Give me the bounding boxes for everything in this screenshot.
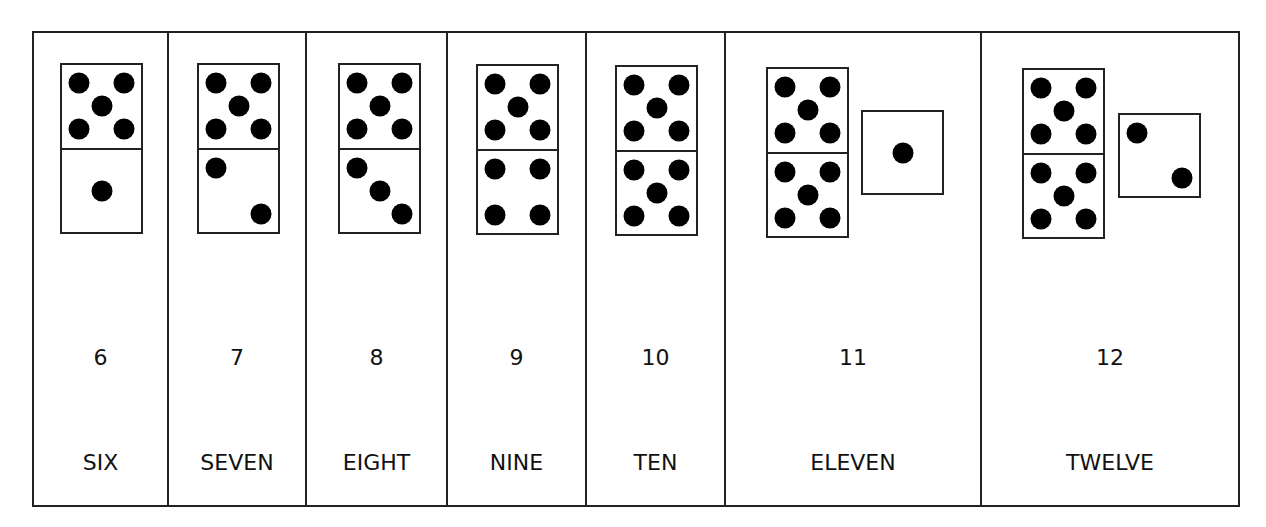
domino-bottom-half — [617, 151, 696, 235]
pip-dot — [369, 180, 390, 201]
die-icon — [1118, 113, 1201, 198]
pip-dot — [819, 77, 840, 98]
word-label: SEVEN — [169, 450, 305, 475]
pip-dot — [485, 158, 506, 179]
pip-dot — [529, 158, 550, 179]
pip-dot — [819, 123, 840, 144]
word-label: SIX — [34, 450, 167, 475]
pip-dot — [1053, 101, 1074, 122]
domino-bottom-half — [478, 150, 557, 234]
domino-top-half — [617, 67, 696, 151]
panel-six: 6 SIX — [34, 33, 169, 505]
pip-dot — [1031, 124, 1052, 145]
pip-dot — [624, 205, 645, 226]
pip-dot — [529, 204, 550, 225]
domino-icon — [615, 65, 698, 236]
pip-dot — [91, 180, 112, 201]
pip-dot — [206, 119, 227, 140]
pip-dot — [668, 159, 689, 180]
pip-dot — [347, 157, 368, 178]
pip-dot — [113, 119, 134, 140]
panel-twelve: 12 TWELVE — [982, 33, 1238, 505]
pip-dot — [775, 207, 796, 228]
pip-dot — [69, 73, 90, 94]
pip-dot — [624, 121, 645, 142]
domino-icon — [338, 63, 421, 234]
domino-bottom-half — [62, 149, 141, 233]
domino-top-half — [340, 65, 419, 149]
pip-dot — [646, 98, 667, 119]
pip-dot — [485, 74, 506, 95]
domino-top-half — [1024, 70, 1103, 154]
pip-dot — [775, 77, 796, 98]
pip-dot — [391, 203, 412, 224]
pip-dot — [668, 121, 689, 142]
number-label: 6 — [34, 345, 167, 370]
pip-dot — [797, 184, 818, 205]
pip-dot — [250, 203, 271, 224]
domino-bottom-half — [340, 149, 419, 233]
domino-bottom-half — [199, 149, 278, 233]
die-icon — [861, 110, 944, 195]
domino-icon — [766, 67, 849, 238]
pip-dot — [347, 73, 368, 94]
pip-dot — [1171, 168, 1192, 189]
pip-dot — [668, 75, 689, 96]
pip-dot — [206, 157, 227, 178]
pip-dot — [1075, 162, 1096, 183]
number-label: 11 — [726, 345, 980, 370]
pip-dot — [819, 207, 840, 228]
pip-dot — [485, 204, 506, 225]
number-label: 10 — [587, 345, 724, 370]
pip-dot — [113, 73, 134, 94]
pip-dot — [485, 120, 506, 141]
pip-dot — [1075, 78, 1096, 99]
pip-dot — [91, 96, 112, 117]
pip-dot — [69, 119, 90, 140]
pip-dot — [819, 161, 840, 182]
number-label: 8 — [307, 345, 446, 370]
pip-dot — [250, 73, 271, 94]
pip-dot — [775, 161, 796, 182]
domino-icon — [476, 64, 559, 235]
number-label: 7 — [169, 345, 305, 370]
pip-dot — [892, 142, 913, 163]
pip-dot — [391, 119, 412, 140]
panel-seven: 7 SEVEN — [169, 33, 307, 505]
domino-top-half — [768, 69, 847, 153]
panel-ten: 10 TEN — [587, 33, 726, 505]
panel-nine: 9 NINE — [448, 33, 587, 505]
domino-bottom-half — [1024, 154, 1103, 238]
pip-dot — [369, 96, 390, 117]
pip-dot — [775, 123, 796, 144]
pip-dot — [1075, 208, 1096, 229]
domino-top-half — [62, 65, 141, 149]
pip-dot — [391, 73, 412, 94]
pip-dot — [1031, 78, 1052, 99]
pip-dot — [1053, 185, 1074, 206]
domino-icon — [60, 63, 143, 234]
pip-dot — [250, 119, 271, 140]
number-words-worksheet: 6 SIX 7 SEVEN 8 EIGHT 9 NINE 10 TEN — [32, 31, 1240, 507]
pip-dot — [1075, 124, 1096, 145]
pip-dot — [668, 205, 689, 226]
pip-dot — [529, 120, 550, 141]
word-label: NINE — [448, 450, 585, 475]
pip-dot — [797, 100, 818, 121]
pip-dot — [228, 96, 249, 117]
domino-top-half — [199, 65, 278, 149]
pip-dot — [206, 73, 227, 94]
domino-bottom-half — [768, 153, 847, 237]
number-label: 12 — [982, 345, 1238, 370]
word-label: EIGHT — [307, 450, 446, 475]
pip-dot — [1031, 162, 1052, 183]
pip-dot — [529, 74, 550, 95]
pip-dot — [624, 75, 645, 96]
pip-dot — [646, 182, 667, 203]
domino-icon — [1022, 68, 1105, 239]
pip-dot — [347, 119, 368, 140]
word-label: TWELVE — [982, 450, 1238, 475]
word-label: TEN — [587, 450, 724, 475]
panel-eight: 8 EIGHT — [307, 33, 448, 505]
pip-dot — [507, 97, 528, 118]
